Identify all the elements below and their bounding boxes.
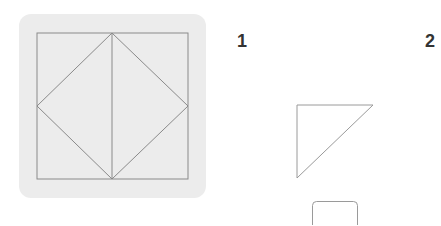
option-shapes xyxy=(0,0,441,225)
rounded-rect-shape[interactable] xyxy=(313,202,358,226)
triangle-shape[interactable] xyxy=(297,105,373,178)
